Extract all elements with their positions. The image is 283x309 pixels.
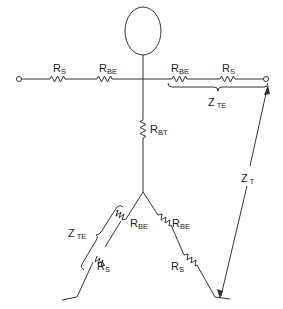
right-arm-brace [168, 83, 268, 91]
label-left-leg-rs: RS [97, 260, 110, 274]
label-trunk-rbt: RBT [150, 123, 168, 137]
body-impedance-diagram: RS RBE RBE RS ZTE RBT ZTE RBE RS RBE RS … [0, 0, 283, 309]
left-terminal-icon [17, 77, 22, 82]
right-leg-circuit [143, 192, 230, 299]
label-left-arm-rs: RS [53, 62, 66, 76]
label-right-arm-rs: RS [222, 62, 235, 76]
label-left-leg-rbe: RBE [130, 217, 148, 231]
head [125, 7, 161, 55]
label-left-leg-zte: ZTE [68, 227, 86, 241]
label-left-arm-rbe: RBE [99, 62, 117, 76]
label-total-zt: ZT [241, 172, 255, 186]
right-terminal-icon [264, 77, 269, 82]
left-leg-circuit [62, 192, 143, 300]
total-impedance-arrow [217, 85, 270, 299]
label-right-arm-rbe: RBE [171, 62, 189, 76]
label-right-leg-rs: RS [171, 260, 184, 274]
label-right-leg-rbe: RBE [172, 217, 190, 231]
label-right-arm-zte: ZTE [208, 96, 226, 110]
trunk-wire [140, 79, 146, 192]
